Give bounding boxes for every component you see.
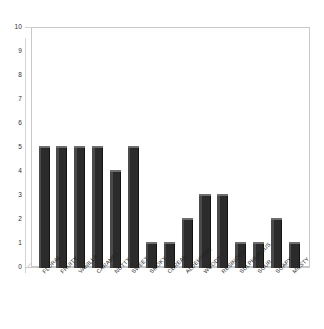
bar-right-face	[210, 196, 211, 268]
y-axis-tick-label: 6	[2, 120, 22, 127]
bar-slot[interactable]	[289, 27, 300, 268]
bar-right-face	[102, 148, 103, 268]
bar-left-face	[128, 148, 131, 268]
y-axis: 012345678910	[0, 0, 31, 329]
bar-right-face	[66, 148, 67, 268]
bar-slot[interactable]	[253, 27, 264, 268]
y-axis-tick-label: 3	[2, 192, 22, 199]
bar-slot[interactable]	[182, 27, 193, 268]
bars-layer	[31, 27, 310, 268]
bar-right-face	[49, 148, 50, 268]
bar-slot[interactable]	[235, 27, 246, 268]
bar-slot[interactable]	[164, 27, 175, 268]
y-axis-tick-label: 7	[2, 96, 22, 103]
y-axis-tick-label: 9	[2, 48, 22, 55]
y-axis-tick-label: 8	[2, 72, 22, 79]
bar-right-face	[84, 148, 85, 268]
bar-fruity[interactable]	[56, 148, 67, 268]
bar-left-face	[39, 148, 42, 268]
y-axis-tick-label: 4	[2, 168, 22, 175]
bar-slot[interactable]	[92, 27, 103, 268]
y-axis-tick-label: 2	[2, 216, 22, 223]
bar-slot[interactable]	[128, 27, 139, 268]
bar-slot[interactable]	[146, 27, 157, 268]
bar-slot[interactable]	[110, 27, 121, 268]
y-axis-tick-label: 1	[2, 240, 22, 247]
bar-slot[interactable]	[56, 27, 67, 268]
bar-soapy[interactable]	[271, 220, 282, 268]
x-axis-labels: FLORALFRUITYVANILLACARAMELNUTTYSWEETSMOK…	[31, 268, 310, 329]
bar-left-face	[56, 148, 59, 268]
bar-slot[interactable]	[74, 27, 85, 268]
y-axis-tick-label: 10	[2, 24, 22, 31]
bar-floral[interactable]	[39, 148, 50, 268]
y-axis-tick-label: 0	[2, 264, 22, 271]
bar-caramel[interactable]	[92, 148, 103, 268]
bar-left-face	[92, 148, 95, 268]
bar-slot[interactable]	[199, 27, 210, 268]
bar-slot[interactable]	[217, 27, 228, 268]
y-axis-tick-label: 5	[2, 144, 22, 151]
bar-slot[interactable]	[39, 27, 50, 268]
bar-right-face	[227, 196, 228, 268]
bar-slot[interactable]	[271, 27, 282, 268]
bar-chart: 012345678910 FLORALFRUITYVANILLACARAMELN…	[0, 0, 324, 329]
bar-left-face	[74, 148, 77, 268]
bar-sweet[interactable]	[128, 148, 139, 268]
bar-vanilla[interactable]	[74, 148, 85, 268]
bar-right-face	[138, 148, 139, 268]
